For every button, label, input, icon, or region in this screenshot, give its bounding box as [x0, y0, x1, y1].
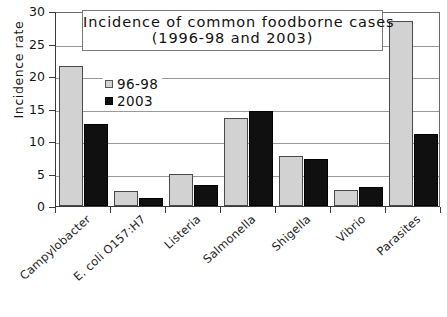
legend-item-2003: 2003: [105, 92, 158, 109]
bar-listeria-96-98: [169, 174, 194, 207]
legend: 96-98 2003: [103, 74, 162, 111]
legend-swatch-icon-2003: [105, 97, 113, 105]
bar-parasites-96-98: [389, 21, 414, 206]
y-tick-label: 25: [17, 39, 45, 50]
bar-campylobacter-96-98: [59, 66, 84, 206]
bar-chart: Incidence rate 051015202530 Campylobacte…: [0, 0, 447, 317]
x-tick-mark: [330, 207, 331, 213]
x-tick-mark: [440, 207, 441, 213]
x-tick-mark: [110, 207, 111, 213]
bar-listeria-2003: [194, 185, 219, 206]
bar-salmonella-96-98: [224, 118, 249, 206]
x-tick-mark: [385, 207, 386, 213]
x-tick-mark: [55, 207, 56, 213]
chart-title-line-2: (1996-98 and 2003): [83, 30, 382, 46]
legend-swatch-icon-96-98: [105, 80, 113, 88]
x-tick-mark: [275, 207, 276, 213]
x-tick-mark: [165, 207, 166, 213]
legend-item-96-98: 96-98: [105, 75, 158, 92]
bar-campylobacter-2003: [84, 124, 109, 206]
bar-shigella-2003: [304, 159, 329, 206]
bar-e-coli-o157-h7-96-98: [114, 191, 139, 206]
bar-parasites-2003: [414, 134, 439, 206]
y-tick-label: 30: [17, 6, 45, 17]
x-tick-mark: [220, 207, 221, 213]
chart-title: Incidence of common foodborne cases (199…: [82, 10, 383, 51]
chart-title-line-1: Incidence of common foodborne cases: [83, 14, 382, 30]
bar-salmonella-2003: [249, 111, 274, 207]
bar-shigella-96-98: [279, 156, 304, 206]
y-tick-label: 20: [17, 71, 45, 82]
bar-vibrio-2003: [359, 187, 384, 207]
y-tick-label: 10: [17, 136, 45, 147]
y-tick-label: 5: [17, 169, 45, 180]
bar-e-coli-o157-h7-2003: [139, 198, 164, 206]
legend-label-96-98: 96-98: [117, 77, 158, 91]
y-tick-label: 0: [17, 201, 45, 212]
bar-vibrio-96-98: [334, 190, 359, 206]
y-tick-label: 15: [17, 104, 45, 115]
legend-label-2003: 2003: [117, 94, 153, 108]
